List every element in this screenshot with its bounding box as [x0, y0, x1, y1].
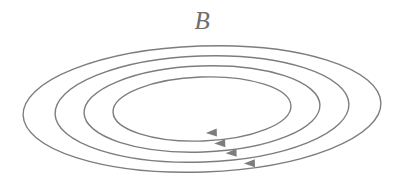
- outermost-loop: [21, 40, 383, 178]
- arrowhead-outermost-loop: [244, 159, 255, 167]
- innermost-loop: [112, 74, 292, 144]
- field-loops-group: [21, 40, 383, 178]
- third-loop: [53, 51, 351, 167]
- field-loops-svg: [0, 0, 405, 189]
- arrowhead-innermost-loop: [206, 128, 217, 136]
- second-loop: [83, 62, 322, 156]
- magnetic-field-figure: B: [0, 0, 405, 189]
